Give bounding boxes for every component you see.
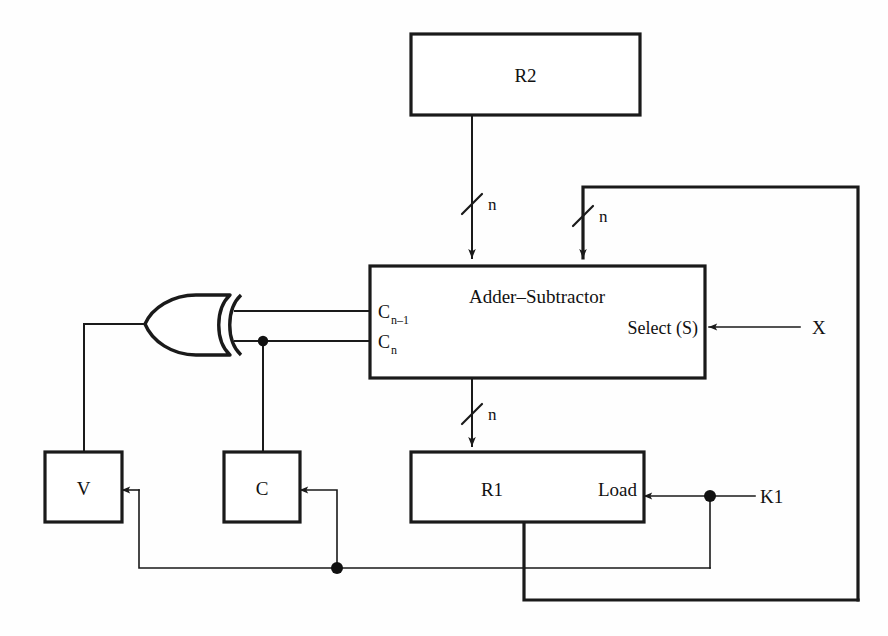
wire-r1-to-feedback <box>524 522 858 600</box>
port-carry-in-sub-label: n–1 <box>391 313 409 327</box>
wire-k1-to-load <box>644 490 755 568</box>
port-carry-out-base-label: C <box>378 332 390 352</box>
wire-feedback-to-adder <box>573 187 858 600</box>
wire-xor-to-v <box>84 324 145 452</box>
port-carry-in-base-label: C <box>378 302 390 322</box>
port-carry-out-sub-label: n <box>391 343 397 357</box>
bus-label-r2-to-adder: n <box>488 195 497 214</box>
block-v-flag[interactable]: V <box>45 452 122 522</box>
port-select-label: Select (S) <box>628 318 698 339</box>
signal-label-k1[interactable]: K1 <box>760 486 783 507</box>
block-adder-subtractor[interactable]: Adder–Subtractor C n–1 C n Select (S) <box>370 266 705 378</box>
block-v-flag-label: V <box>77 478 91 499</box>
block-c-flag-label: C <box>256 478 269 499</box>
junction-dot-lower-rail <box>331 562 343 574</box>
block-r2-label: R2 <box>514 65 536 86</box>
junction-dot-k1 <box>704 490 716 502</box>
block-diagram-canvas: R2 Adder–Subtractor C n–1 C n Select (S)… <box>0 0 888 636</box>
bus-label-feedback-to-adder: n <box>599 207 608 226</box>
block-c-flag[interactable]: C <box>224 452 300 522</box>
block-r1[interactable]: R1 Load <box>411 452 644 522</box>
block-r2[interactable]: R2 <box>411 34 640 115</box>
block-r1-label: R1 <box>481 479 503 500</box>
wire-carry-n <box>235 336 370 452</box>
wire-r2-to-adder <box>462 115 482 258</box>
bus-label-adder-to-r1: n <box>488 405 497 424</box>
wire-adder-to-r1 <box>462 378 482 446</box>
block-adder-subtractor-label: Adder–Subtractor <box>469 286 606 307</box>
overflow-xor-gate <box>145 295 241 355</box>
schematic-svg: R2 Adder–Subtractor C n–1 C n Select (S)… <box>0 0 888 636</box>
junction-dot-carry-out <box>258 336 268 346</box>
block-r1-load-label: Load <box>598 479 638 500</box>
signal-label-x[interactable]: X <box>812 317 826 338</box>
